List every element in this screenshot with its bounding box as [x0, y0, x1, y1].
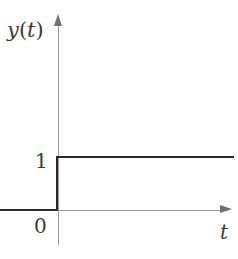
y-axis-label-argument: t — [27, 18, 35, 42]
y-axis-line — [58, 22, 59, 245]
origin-label-zero: 0 — [34, 216, 47, 236]
curve-segment-after-step — [56, 156, 234, 158]
y-axis-arrowhead-icon — [54, 14, 62, 26]
y-axis-label-variable: y — [7, 18, 19, 42]
y-axis-label: y(t) — [7, 20, 44, 41]
y-axis-label-close-paren: ) — [36, 18, 44, 42]
curve-segment-before-step — [0, 209, 58, 211]
y-axis-label-open-paren: ( — [19, 18, 27, 42]
curve-segment-vertical-jump — [56, 156, 58, 211]
x-axis-label: t — [220, 222, 228, 242]
x-axis-arrowhead-icon — [220, 205, 232, 213]
y-tick-label-one: 1 — [35, 151, 48, 171]
step-function-plot: y(t) 1 0 t — [0, 0, 238, 259]
